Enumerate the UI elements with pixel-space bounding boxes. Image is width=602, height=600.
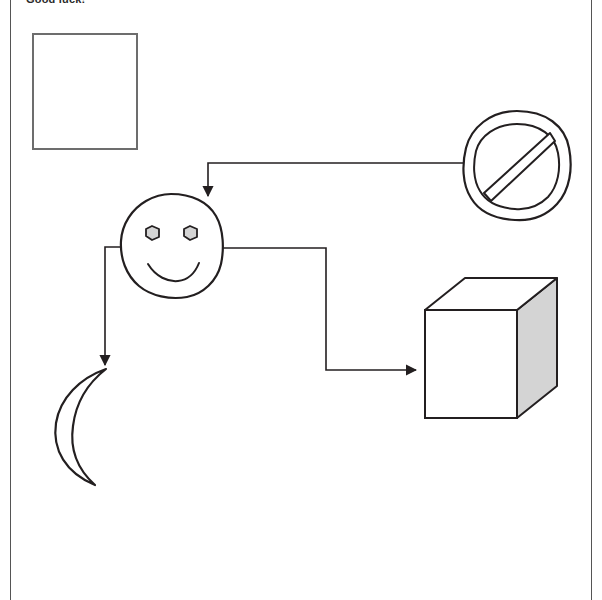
crescent-moon[interactable] [55,369,106,485]
diagram-canvas [0,0,602,600]
smiley-right-eye [184,226,197,240]
square-outline [33,34,137,149]
worksheet-page: Good luck! [0,0,602,600]
cube-3d[interactable] [425,278,557,418]
connector-prohibition-to-smiley[interactable] [208,163,465,196]
smiley-head-outline [121,194,223,298]
smiley-face[interactable] [121,194,223,298]
smiley-left-eye [146,226,159,240]
prohibition-sign[interactable] [463,111,570,220]
cube-face-front [425,310,517,418]
connector-smiley-to-cube[interactable] [222,248,416,370]
empty-square[interactable] [33,34,137,149]
crescent-moon-outline [55,369,106,485]
